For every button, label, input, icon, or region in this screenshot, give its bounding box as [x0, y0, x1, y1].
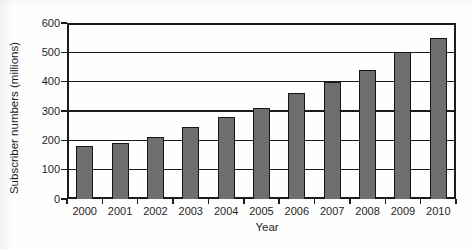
- y-tick-500: [61, 52, 67, 54]
- x-tick-label-2001: 2001: [102, 205, 137, 218]
- x-tick-label-2003: 2003: [173, 205, 208, 218]
- x-tick-label-2004: 2004: [208, 205, 243, 218]
- x-tick-label-2005: 2005: [244, 205, 279, 218]
- y-tick-400: [61, 81, 67, 83]
- x-tick-11: [455, 199, 457, 204]
- y-tick-200: [61, 140, 67, 142]
- x-tick-2: [137, 199, 139, 204]
- x-tick-6: [278, 199, 280, 204]
- y-tick-label-500: 500: [20, 46, 60, 59]
- x-tick-0: [66, 199, 68, 204]
- bar-2010: [430, 38, 447, 199]
- x-tick-9: [385, 199, 387, 204]
- bar-2004: [218, 117, 235, 199]
- y-tick-600: [61, 22, 67, 24]
- x-tick-3: [172, 199, 174, 204]
- y-tick-label-0: 0: [20, 193, 60, 206]
- subscriber-bar-chart: Subscriber numbers (millions) 0100200300…: [0, 0, 473, 249]
- bar-2009: [394, 52, 411, 199]
- x-tick-1: [102, 199, 104, 204]
- bar-2001: [112, 143, 129, 199]
- x-tick-label-2008: 2008: [350, 205, 385, 218]
- x-tick-label-2010: 2010: [421, 205, 456, 218]
- y-tick-label-600: 600: [20, 17, 60, 30]
- x-tick-8: [349, 199, 351, 204]
- x-tick-label-2006: 2006: [279, 205, 314, 218]
- y-tick-100: [61, 169, 67, 171]
- y-tick-label-400: 400: [20, 75, 60, 88]
- bar-2000: [76, 146, 93, 199]
- bar-2003: [182, 127, 199, 199]
- y-tick-label-200: 200: [20, 134, 60, 147]
- x-tick-label-2009: 2009: [385, 205, 420, 218]
- x-tick-label-2000: 2000: [67, 205, 102, 218]
- x-tick-label-2007: 2007: [315, 205, 350, 218]
- bar-2007: [324, 82, 341, 199]
- x-tick-label-2002: 2002: [138, 205, 173, 218]
- x-axis-title: Year: [67, 221, 467, 233]
- y-tick-label-100: 100: [20, 163, 60, 176]
- x-tick-5: [243, 199, 245, 204]
- bar-2005: [253, 108, 270, 199]
- x-tick-10: [420, 199, 422, 204]
- bar-2008: [359, 70, 376, 199]
- bar-2006: [288, 93, 305, 199]
- y-tick-300: [61, 110, 67, 112]
- y-tick-label-300: 300: [20, 105, 60, 118]
- x-tick-7: [314, 199, 316, 204]
- bar-2002: [147, 137, 164, 199]
- x-tick-4: [208, 199, 210, 204]
- y-axis-title: Subscriber numbers (millions): [8, 42, 20, 194]
